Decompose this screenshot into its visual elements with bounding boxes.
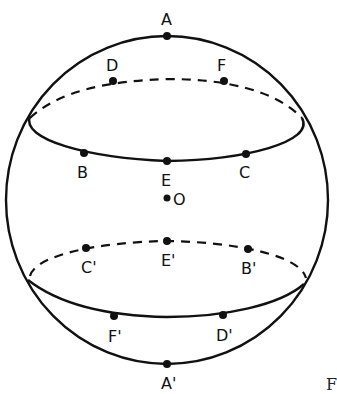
caption-fragment: F	[326, 375, 337, 394]
point-d-prime	[219, 311, 227, 319]
point-c	[242, 150, 250, 158]
label-d-prime: D'	[216, 326, 233, 345]
point-f-prime	[110, 312, 118, 320]
label-o: O	[173, 190, 186, 209]
point-d	[109, 77, 117, 85]
label-b-prime: B'	[241, 259, 256, 278]
label-f-prime: F'	[108, 327, 122, 346]
label-b: B	[77, 163, 88, 182]
point-o	[164, 195, 171, 202]
point-b-prime	[244, 245, 252, 253]
point-a-prime	[163, 360, 171, 368]
point-b	[80, 149, 88, 157]
label-d: D	[106, 56, 118, 75]
label-a: A	[161, 10, 172, 29]
sphere-diagram: A D F B E C O C' E' B' F' D' A' F	[0, 0, 337, 394]
point-e	[163, 157, 171, 165]
label-c-prime: C'	[81, 258, 97, 277]
label-e-prime: E'	[161, 251, 176, 270]
label-e: E	[161, 171, 171, 190]
point-a	[163, 32, 171, 40]
lower-circle-front	[28, 280, 304, 317]
label-c: C	[239, 163, 250, 182]
label-a-prime: A'	[161, 374, 176, 393]
point-e-prime	[163, 237, 171, 245]
upper-circle-back	[30, 79, 302, 118]
upper-circle-front	[29, 116, 304, 161]
point-f	[220, 77, 228, 85]
point-c-prime	[82, 244, 90, 252]
label-f: F	[217, 56, 226, 75]
